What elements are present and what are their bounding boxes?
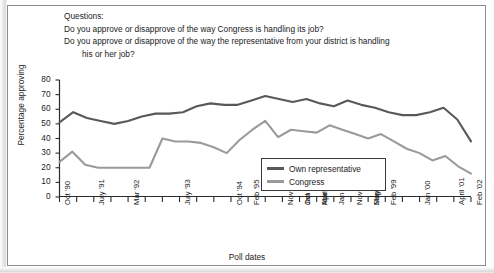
y-tick-label: 10 [29,176,51,186]
legend-label-congress: Congress [289,177,325,187]
x-tick-label: Oct '90 [63,181,72,205]
x-tick-label: Mar '92 [132,180,141,205]
x-tick-label: July '91 [97,179,106,205]
line-chart: Percentage approving Poll dates 01020304… [0,0,494,273]
x-tick-label: Jan '00 [423,180,432,205]
legend-label-own-representative: Own representative [289,164,361,174]
y-tick-label: 70 [29,89,51,99]
y-tick-label: 30 [29,147,51,157]
y-tick-label: 80 [29,74,51,84]
x-tick-label: Oct '94 [235,181,244,205]
legend-swatch-congress [267,180,284,183]
legend-item-congress: Congress [267,175,380,188]
y-tick-label: 20 [29,162,51,172]
figure-panel: Questions: Do you approve or disapprove … [0,0,494,273]
x-tick-label: Feb '02 [475,180,484,205]
legend-swatch-own-representative [267,167,284,170]
y-tick-label: 0 [29,191,51,201]
x-tick-label: July '93 [183,179,192,205]
x-tick-label: Feb '99 [389,180,398,205]
x-tick-marks [60,197,472,202]
chart-legend: Own representative Congress [261,158,386,191]
x-tick-label: Feb '95 [252,180,261,205]
plot-svg [0,0,494,273]
y-tick-label: 50 [29,118,51,128]
series-line-own-representative [60,96,472,141]
x-tick-label: April '01 [457,177,466,205]
y-tick-label: 60 [29,103,51,113]
legend-item-own-representative: Own representative [267,162,380,175]
y-tick-label: 40 [29,133,51,143]
